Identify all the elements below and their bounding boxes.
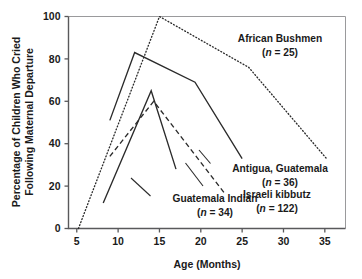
x-axis-title: Age (Months) <box>173 258 240 270</box>
y-tick-label: 0 <box>55 222 61 234</box>
chart-figure: 020406080100 5101520253035 Percentage of… <box>0 0 362 279</box>
y-axis-title-line2: Following Maternal Departure <box>23 48 35 196</box>
annotation-label-israeli-kibbutz: Israeli kibbutz <box>243 189 311 200</box>
x-tick-label: 35 <box>319 235 331 247</box>
chart-canvas: 020406080100 5101520253035 Percentage of… <box>0 0 362 279</box>
y-axis-title-line1: Percentage of Children Who Cried <box>10 37 22 207</box>
annotation-n-israeli-kibbutz: (n = 122) <box>256 203 298 214</box>
annotation-label-antigua-guatemala: Antigua, Guatemala <box>232 163 328 174</box>
annotation-n-guatemala-indian: (n = 34) <box>197 207 233 218</box>
y-tick-label: 40 <box>49 137 61 149</box>
x-tick-label: 15 <box>154 235 166 247</box>
y-tick-label: 20 <box>49 180 61 192</box>
y-axis-title: Percentage of Children Who Cried Followi… <box>10 37 35 207</box>
annotation-label-african-bushmen: African Bushmen <box>238 33 322 44</box>
y-tick-label: 100 <box>43 10 61 22</box>
y-tick-label: 60 <box>49 95 61 107</box>
x-tick-label: 20 <box>195 235 207 247</box>
x-tick-label: 10 <box>112 235 124 247</box>
y-tick-label: 80 <box>49 53 61 65</box>
x-tick-label: 5 <box>74 235 80 247</box>
annotation-n-antigua-guatemala: (n = 36) <box>262 177 298 188</box>
annotation-n-african-bushmen: (n = 25) <box>262 47 298 58</box>
x-tick-label: 25 <box>236 235 248 247</box>
x-tick-label: 30 <box>278 235 290 247</box>
